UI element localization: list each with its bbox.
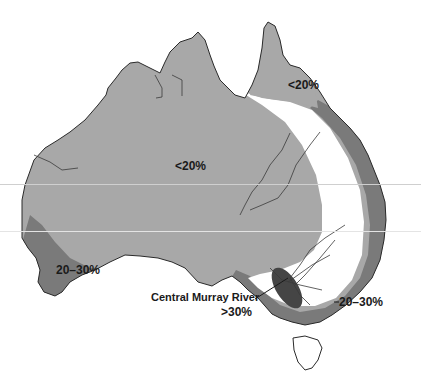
australia-map bbox=[0, 0, 421, 386]
tasmania bbox=[293, 336, 322, 370]
label-cape-york-lt20: <20% bbox=[288, 78, 319, 92]
artifact-line-1 bbox=[0, 184, 421, 185]
label-central-murray-river: Central Murray River bbox=[151, 291, 259, 303]
label-central-lt20: <20% bbox=[175, 159, 206, 173]
label-southwest-20-30: 20–30% bbox=[56, 263, 100, 277]
label-southeast-20-30: 20–30% bbox=[339, 295, 383, 309]
label-murray-gt30: >30% bbox=[221, 305, 252, 319]
artifact-line-2 bbox=[0, 231, 421, 232]
